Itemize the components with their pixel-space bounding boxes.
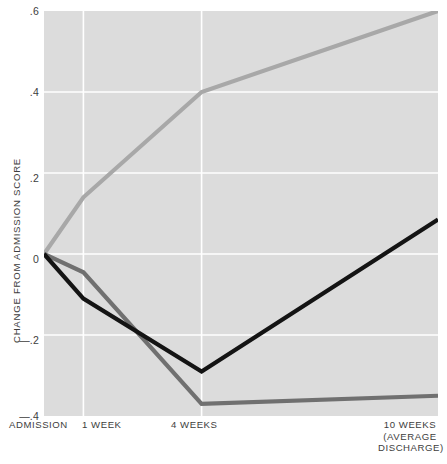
series-line-medium-gray: [44, 254, 438, 404]
data-series-group: [44, 11, 438, 404]
plot-area: [44, 11, 438, 416]
x-axis: ADMISSION 1 WEEK 4 WEEKS 10 WEEKS (AVERA…: [0, 419, 447, 464]
x-tick-label-10-weeks: 10 WEEKS (AVERAGE DISCHARGE): [378, 419, 442, 454]
x-tick-label-admission: ADMISSION: [9, 419, 68, 431]
y-tick-label-neg0p2: —.2: [19, 335, 39, 346]
y-tick-label-0p2: .2: [30, 173, 39, 184]
y-axis-title: CHANGE FROM ADMISSION SCORE: [11, 151, 22, 351]
gridlines: [44, 11, 438, 416]
x-tick-label-1-week: 1 WEEK: [82, 419, 122, 431]
series-line-light-gray: [44, 11, 438, 254]
plot-svg: [44, 11, 438, 416]
y-tick-label-0p6: .6: [30, 6, 39, 17]
y-tick-label-0: 0: [33, 254, 39, 265]
x-tick-label-4-weeks: 4 WEEKS: [171, 419, 218, 431]
y-tick-label-0p4: .4: [30, 87, 39, 98]
line-chart-figure: .6 .4 .2 0 —.2 —.4 CHANGE FROM ADMISSION…: [0, 0, 447, 464]
